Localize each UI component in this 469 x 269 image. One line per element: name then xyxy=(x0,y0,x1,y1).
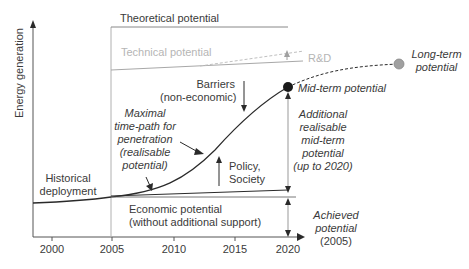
mid-term-potential-label: Mid-term potential xyxy=(298,82,386,95)
long-term-marker xyxy=(394,59,404,69)
technical-potential-line xyxy=(111,61,303,70)
x-axis xyxy=(33,233,305,241)
historical-deployment-label: Historical deployment xyxy=(38,172,98,198)
y-axis xyxy=(30,20,36,237)
technical-potential-label: Technical potential xyxy=(121,46,212,59)
mid-term-marker xyxy=(283,82,293,92)
tick-2010: 2010 xyxy=(154,243,194,255)
maximal-time-path-label: Maximal time-path for penetration (reali… xyxy=(110,107,180,172)
rd-label: R&D xyxy=(308,52,331,65)
additional-potential-label: Additional realisable mid-term potential… xyxy=(292,108,354,173)
achieved-potential-label: Achieved potential (2005) xyxy=(305,209,367,248)
tick-2005: 2005 xyxy=(92,243,132,255)
long-term-potential-label: Long-term potential xyxy=(404,48,469,74)
y-axis-label: Energy generation xyxy=(13,28,25,118)
tick-2020: 2020 xyxy=(268,243,308,255)
tick-2000: 2000 xyxy=(32,243,72,255)
tick-2015: 2015 xyxy=(215,243,255,255)
theoretical-potential-label: Theoretical potential xyxy=(120,12,219,25)
economic-potential-label: Economic potential (without additional s… xyxy=(129,203,261,229)
policy-society-label: Policy, Society xyxy=(229,160,265,186)
barriers-label: Barriers (non-economic) xyxy=(160,78,235,104)
